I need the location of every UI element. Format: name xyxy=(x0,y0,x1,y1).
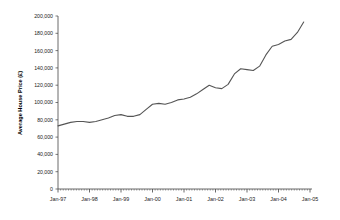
y-axis-tick-label: 120,000 xyxy=(34,82,53,88)
y-axis-tick-label: 180,000 xyxy=(34,30,53,36)
y-axis-title-text: Average House Price (£) xyxy=(17,71,23,135)
y-axis-tick-label: 200,000 xyxy=(34,13,53,19)
y-axis-tick-label: 80,000 xyxy=(37,117,53,123)
y-axis-tick-label: 160,000 xyxy=(34,48,53,54)
chart-container: Average House Price (£) 020,00040,00060,… xyxy=(0,0,340,220)
y-axis-tick-label: 100,000 xyxy=(34,99,53,105)
price-series-line xyxy=(58,22,304,126)
x-axis-tick-label: Jan-05 xyxy=(302,196,318,202)
y-axis-tick-label: 20,000 xyxy=(37,169,53,175)
x-axis-tick-label: Jan-03 xyxy=(239,196,255,202)
x-axis-tick-label: Jan-01 xyxy=(176,196,192,202)
x-axis-tick-label: Jan-04 xyxy=(270,196,286,202)
house-price-line-chart: Average House Price (£) 020,00040,00060,… xyxy=(0,0,340,220)
y-axis-tick-label: 60,000 xyxy=(37,134,53,140)
x-axis-tick-label: Jan-98 xyxy=(81,196,97,202)
y-axis-title: Average House Price (£) xyxy=(17,71,23,135)
x-axis-ticks: Jan-97Jan-98Jan-99Jan-00Jan-01Jan-02Jan-… xyxy=(50,189,318,202)
x-axis-tick-label: Jan-00 xyxy=(144,196,160,202)
x-axis-tick-label: Jan-99 xyxy=(113,196,129,202)
y-axis-ticks: 020,00040,00060,00080,000100,000120,0001… xyxy=(34,13,58,192)
x-axis-tick-label: Jan-97 xyxy=(50,196,66,202)
y-axis-tick-label: 140,000 xyxy=(34,65,53,71)
x-axis-tick-label: Jan-02 xyxy=(207,196,223,202)
y-axis-tick-label: 0 xyxy=(50,186,53,192)
y-axis-tick-label: 40,000 xyxy=(37,151,53,157)
